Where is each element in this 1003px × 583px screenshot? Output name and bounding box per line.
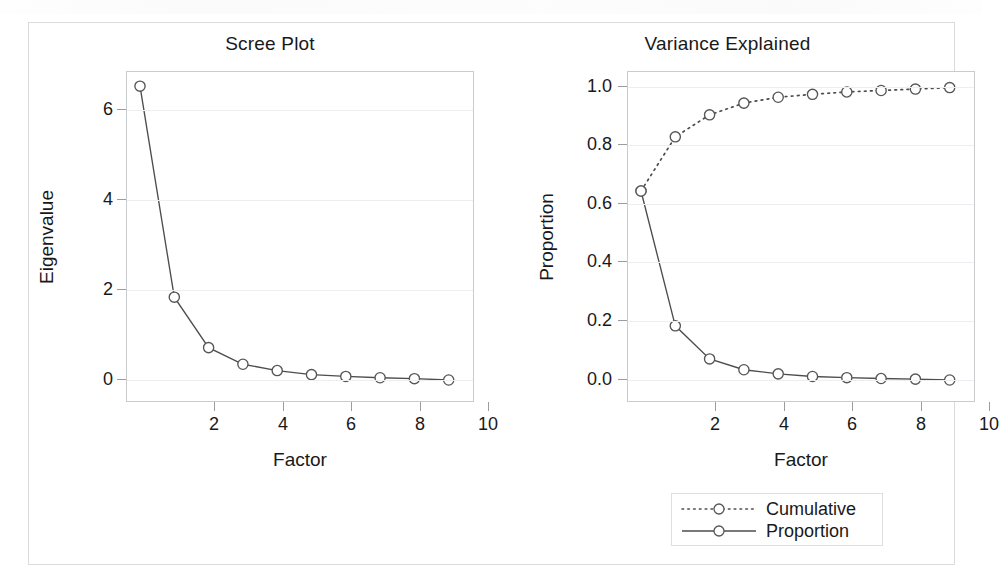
variance-gridline-06 <box>628 204 974 205</box>
scree-ytickmark-6 <box>117 109 126 110</box>
scree-series-canvas <box>127 72 475 403</box>
scree-gridline-2 <box>127 290 473 291</box>
variance-ytick-06: 0.6 <box>552 193 612 214</box>
variance-x-axis-label: Factor <box>627 449 975 471</box>
variance-ytick-02: 0.2 <box>552 310 612 331</box>
variance-gridline-10 <box>628 87 974 88</box>
panel-variance-explained: Variance Explained Proportion 0.0 0.2 0.… <box>499 23 956 566</box>
scree-xtickmark-4 <box>283 402 284 411</box>
scree-y-axis-label: Eigenvalue <box>36 157 58 317</box>
variance-ytickmark-06 <box>618 203 627 204</box>
variance-ytickmark-08 <box>618 144 627 145</box>
scree-gridline-6 <box>127 110 473 111</box>
variance-gridline-08 <box>628 145 974 146</box>
scree-gridline-0 <box>127 380 473 381</box>
variance-ytickmark-04 <box>618 261 627 262</box>
variance-ytick-08: 0.8 <box>552 134 612 155</box>
scree-xtick-8: 8 <box>390 414 450 435</box>
scan-artifact <box>0 0 982 14</box>
scree-xtickmark-8 <box>420 402 421 411</box>
scree-xtickmark-2 <box>214 402 215 411</box>
variance-gridline-04 <box>628 262 974 263</box>
scree-gridline-4 <box>127 200 473 201</box>
scree-xtickmark-6 <box>351 402 352 411</box>
scree-xtick-2: 2 <box>184 414 244 435</box>
variance-ytick-00: 0.0 <box>552 369 612 390</box>
scree-xtick-6: 6 <box>321 414 381 435</box>
legend-label-proportion: Proportion <box>766 522 849 540</box>
legend-item-cumulative[interactable]: Cumulative <box>680 498 874 520</box>
legend-label-cumulative: Cumulative <box>766 500 856 518</box>
scree-plot-area <box>126 71 474 402</box>
scree-ytick-4: 4 <box>71 189 113 210</box>
variance-ytick-04: 0.4 <box>552 251 612 272</box>
scree-ytickmark-2 <box>117 289 126 290</box>
variance-y-axis-label: Proportion <box>536 157 558 317</box>
scree-ytick-2: 2 <box>71 279 113 300</box>
variance-xtickmark-10 <box>989 402 990 411</box>
legend-swatch-proportion-icon <box>680 522 758 540</box>
scree-ytickmark-0 <box>117 379 126 380</box>
variance-xtickmark-6 <box>852 402 853 411</box>
scree-xtickmark-10 <box>488 402 489 411</box>
variance-xtickmark-8 <box>921 402 922 411</box>
variance-xtickmark-4 <box>784 402 785 411</box>
variance-ytick-10: 1.0 <box>552 76 612 97</box>
variance-xtick-2: 2 <box>685 414 745 435</box>
figure-frame: Scree Plot Eigenvalue 0 2 4 6 2 4 6 8 10 <box>28 22 955 565</box>
variance-xtick-10: 10 <box>959 414 1003 435</box>
legend-swatch-cumulative-icon <box>680 500 758 518</box>
variance-gridline-02 <box>628 321 974 322</box>
variance-xtickmark-2 <box>715 402 716 411</box>
variance-xtick-6: 6 <box>822 414 882 435</box>
legend: Cumulative Proportion <box>671 493 883 546</box>
legend-item-proportion[interactable]: Proportion <box>680 520 874 542</box>
scree-plot-title: Scree Plot <box>29 33 511 55</box>
variance-plot-area <box>627 71 975 402</box>
scree-xtick-4: 4 <box>253 414 313 435</box>
scree-ytickmark-4 <box>117 199 126 200</box>
variance-xtick-4: 4 <box>754 414 814 435</box>
variance-gridline-00 <box>628 380 974 381</box>
scree-ytick-0: 0 <box>71 369 113 390</box>
panel-scree-plot: Scree Plot Eigenvalue 0 2 4 6 2 4 6 8 10 <box>29 23 511 566</box>
variance-series-canvas <box>628 72 976 403</box>
variance-plot-title: Variance Explained <box>499 33 956 55</box>
variance-ytickmark-00 <box>618 379 627 380</box>
variance-xtick-8: 8 <box>891 414 951 435</box>
variance-ytickmark-02 <box>618 320 627 321</box>
scree-ytick-6: 6 <box>71 99 113 120</box>
scree-x-axis-label: Factor <box>126 449 474 471</box>
variance-ytickmark-10 <box>618 86 627 87</box>
